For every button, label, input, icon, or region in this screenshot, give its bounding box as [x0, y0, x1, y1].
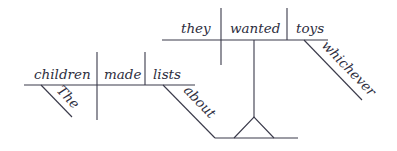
word-about: about: [181, 82, 220, 122]
word-whichever: whichever: [319, 37, 381, 100]
word-the: The: [54, 82, 83, 112]
word-lists: lists: [153, 66, 181, 82]
sentence-diagram: children made lists The about they wante…: [0, 0, 397, 151]
pedestal-triangle: [234, 117, 274, 138]
word-toys: toys: [296, 20, 324, 36]
word-children: children: [34, 66, 91, 82]
word-wanted: wanted: [230, 20, 281, 36]
word-they: they: [181, 20, 211, 36]
word-made: made: [104, 66, 141, 82]
